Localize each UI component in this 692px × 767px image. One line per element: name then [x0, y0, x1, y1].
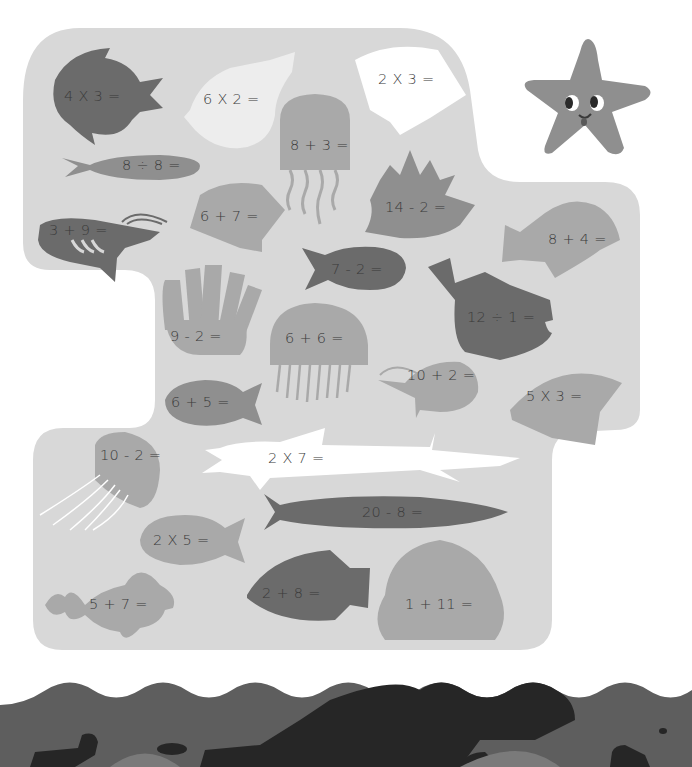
equation-label: 2 X 7 = [268, 450, 324, 466]
equation-label: 20 - 8 = [362, 504, 423, 520]
equation-label: 9 - 2 = [170, 328, 222, 344]
equation-label: 6 + 6 = [285, 330, 344, 346]
equation-label: 1 + 11 = [405, 596, 473, 612]
equation-label: 5 X 3 = [526, 388, 582, 404]
equation-label: 2 X 3 = [378, 71, 434, 87]
equation-label: 4 X 3 = [64, 88, 120, 104]
equation-label: 6 + 7 = [200, 208, 259, 224]
equation-label: 2 X 5 = [153, 532, 209, 548]
worksheet-scene [0, 0, 692, 767]
equation-label: 7 - 2 = [331, 261, 383, 277]
rock-icon [157, 743, 187, 755]
equation-label: 10 + 2 = [407, 367, 475, 383]
equation-label: 2 + 8 = [262, 585, 321, 601]
ocean-wave-border [0, 683, 692, 767]
equation-label: 12 ÷ 1 = [467, 309, 535, 325]
starfish-icon [525, 39, 651, 154]
equation-label: 14 - 2 = [385, 199, 446, 215]
equation-label: 8 ÷ 8 = [122, 157, 181, 173]
equation-label: 8 + 4 = [548, 231, 607, 247]
equation-label: 5 + 7 = [89, 596, 148, 612]
equation-label: 6 X 2 = [203, 91, 259, 107]
equation-label: 3 + 9 = [49, 222, 108, 238]
equation-label: 10 - 2 = [100, 447, 161, 463]
equation-label: 8 + 3 = [290, 137, 349, 153]
equation-label: 6 + 5 = [171, 394, 230, 410]
